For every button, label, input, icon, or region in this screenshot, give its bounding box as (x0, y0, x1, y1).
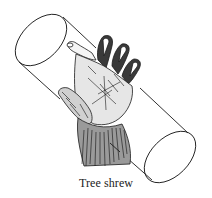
branch-end-left (6, 5, 77, 76)
thumb-claw (67, 43, 73, 47)
tree-shrew-hand-illustration (0, 0, 212, 198)
figure-caption: Tree shrew (0, 176, 212, 191)
hand (58, 35, 140, 166)
branch-top-edge-2 (140, 88, 188, 133)
branch-bottom-edge (19, 62, 60, 99)
